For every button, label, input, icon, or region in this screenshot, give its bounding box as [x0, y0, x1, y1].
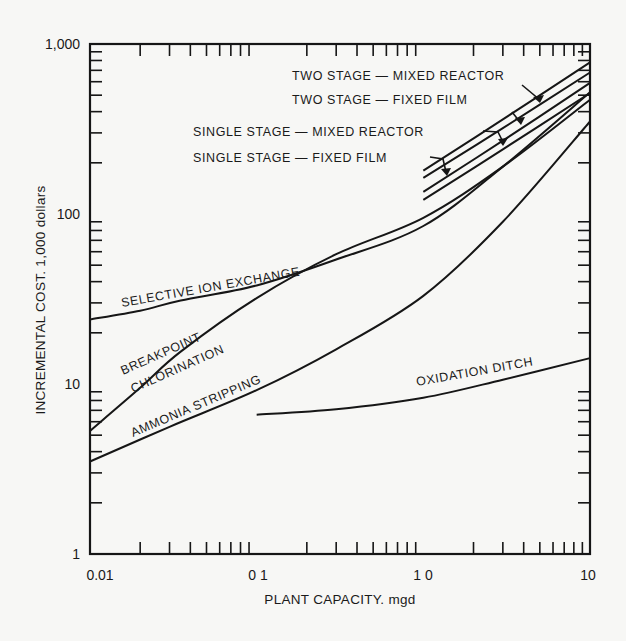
arrowhead-two-stage-fixed	[515, 117, 525, 125]
x-tick-label-0.01: 0.01	[86, 567, 113, 583]
label-oxidation-ditch: OXIDATION DITCH	[415, 355, 534, 389]
series-line-single-stage-fixed-film	[423, 93, 590, 200]
curves	[90, 62, 590, 461]
label-single-stage-fixed: SINGLE STAGE — FIXED FILM	[193, 151, 387, 165]
y-tick-label-1: 1	[72, 546, 80, 562]
x-axis-title: PLANT CAPACITY. mgd	[264, 592, 415, 607]
series-line-two-stage-fixed-film	[423, 72, 590, 177]
y-tick-label-10: 10	[64, 376, 80, 392]
y-tick-label-1000: 1,000	[45, 36, 80, 52]
cost-chart: 1 10 100 1,000 0.01 0 1 1 0 10 PLANT CAP…	[0, 0, 626, 641]
x-tick-label-10: 10	[580, 567, 596, 583]
x-tick-label-0.1: 0 1	[248, 567, 268, 583]
x-tick-label-1.0: 1 0	[413, 567, 433, 583]
label-two-stage-mixed: TWO STAGE — MIXED REACTOR	[292, 69, 504, 83]
label-single-stage-mixed: SINGLE STAGE — MIXED REACTOR	[193, 125, 424, 139]
label-two-stage-fixed: TWO STAGE — FIXED FILM	[292, 93, 467, 107]
y-tick-label-100: 100	[57, 206, 81, 222]
y-axis-title: INCREMENTAL COST. 1,000 dollars	[33, 185, 48, 414]
